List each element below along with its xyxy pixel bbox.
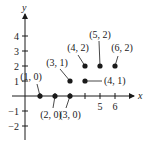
data-point (82, 63, 87, 68)
data-point (82, 78, 87, 83)
data-point (97, 63, 102, 68)
point-label: (6, 2) (111, 42, 133, 54)
y-tick-label: 3 (14, 46, 19, 57)
data-point (37, 93, 42, 98)
y-tick-label: −1 (8, 106, 19, 117)
x-tick-label: 5 (98, 101, 103, 112)
point-label: (4, 1) (104, 75, 126, 87)
data-point (112, 63, 117, 68)
scatter-plot: xy 56−2−11234 (1, 0)(2, 0)(3, 0)(3, 1)(4… (0, 0, 148, 145)
x-tick-label: 6 (113, 101, 118, 112)
point-label: (4, 2) (67, 42, 89, 54)
y-axis-label: y (21, 2, 27, 13)
leader-line (99, 41, 100, 66)
y-tick-label: −2 (8, 121, 19, 132)
x-axis-label: x (137, 90, 143, 101)
data-point (52, 93, 57, 98)
point-label: (3, 0) (59, 109, 81, 121)
point-label: (5, 2) (89, 29, 111, 41)
data-point (67, 93, 72, 98)
data-point (67, 78, 72, 83)
y-tick-label: 2 (14, 61, 19, 72)
point-label: (3, 1) (46, 57, 68, 69)
y-tick-label: 4 (14, 31, 19, 42)
point-label: (1, 0) (20, 71, 42, 83)
y-tick-label: 1 (14, 76, 19, 87)
